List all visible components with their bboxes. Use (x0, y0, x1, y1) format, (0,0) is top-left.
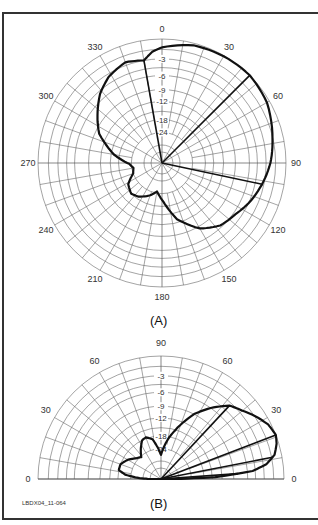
db-label: -9 (157, 402, 165, 411)
grid-spoke (140, 358, 156, 449)
angle-label: 60 (222, 356, 232, 366)
angle-label: 60 (89, 356, 99, 366)
reference-ray (161, 435, 276, 479)
angle-label: 0 (25, 474, 30, 484)
angle-label: 30 (271, 405, 281, 415)
grid-spoke (171, 363, 203, 450)
angle-label: 30 (41, 405, 51, 415)
db-label: -12 (155, 414, 167, 423)
grid-spoke (166, 358, 182, 449)
db-label: -18 (155, 432, 167, 441)
grid-spoke (45, 437, 132, 469)
polar-chart-b: 030609060300-3-6-9-12-18-24 (0, 0, 318, 525)
angle-label: 0 (291, 474, 296, 484)
db-label: -6 (157, 388, 165, 397)
angle-label: 90 (156, 338, 166, 348)
db-label: -3 (157, 372, 165, 381)
grid-spoke (40, 458, 131, 474)
